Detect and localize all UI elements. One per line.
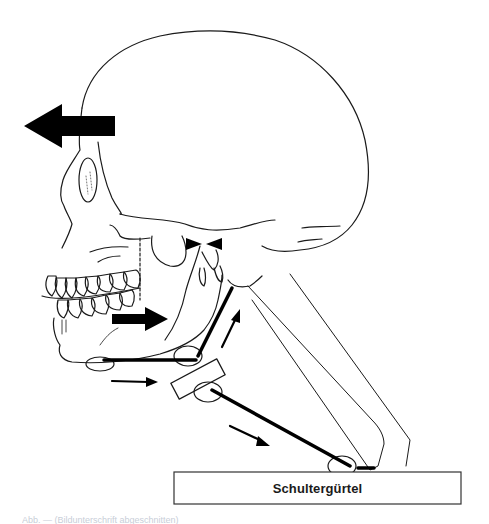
head-forward-arrow-icon <box>24 104 115 148</box>
infrahyoid-pull-arrow-icon <box>230 426 270 446</box>
upper-teeth <box>46 270 140 298</box>
cranium-outline <box>82 31 368 251</box>
skull-base-line <box>120 214 275 230</box>
suprahyoid-pull-arrow-icon <box>112 377 158 387</box>
mandible-retrusion-arrow-icon <box>112 307 168 331</box>
stylohyoid-muscle-line <box>198 288 232 356</box>
hyoid-up-arrow-icon <box>222 309 240 347</box>
figure-caption: Abb. — (Bildunterschrift abgeschnitten) <box>22 516 482 524</box>
temporomandibular-joint <box>199 250 223 286</box>
nasal-cavity <box>79 158 97 202</box>
shoulder-girdle-label: Schultergürtel <box>174 473 461 503</box>
neck-muscle-band <box>248 286 384 470</box>
